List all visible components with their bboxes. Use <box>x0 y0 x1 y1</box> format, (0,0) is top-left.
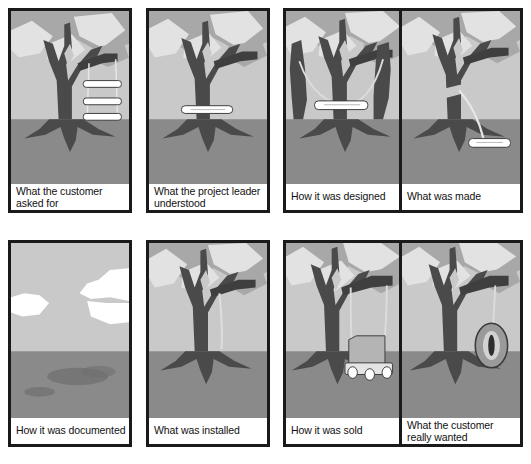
comic-grid: What the customer asked for What the <box>0 0 531 464</box>
panel-5-illustration <box>11 243 129 418</box>
panel-8-illustration <box>402 243 520 418</box>
panel-1-illustration <box>11 11 129 184</box>
panel-7-scene <box>286 243 404 418</box>
comic-panel-5: How it was documented <box>8 240 132 447</box>
panel-5-scene <box>11 243 129 418</box>
comic-panel-4: What was made <box>399 8 523 213</box>
panel-7-illustration <box>286 243 404 418</box>
panel-3-illustration <box>286 11 404 184</box>
panel-6-scene <box>149 243 267 418</box>
panel-2-illustration <box>149 11 267 184</box>
panel-4-scene <box>402 11 520 184</box>
panel-4-caption: What was made <box>402 184 520 210</box>
panel-8-caption: What the customer really wanted <box>402 418 520 444</box>
panel-3-scene <box>286 11 404 184</box>
panel-3-caption: How it was designed <box>286 184 404 210</box>
panel-4-illustration <box>402 11 520 184</box>
panel-8-scene <box>402 243 520 418</box>
panel-1-scene <box>11 11 129 184</box>
comic-panel-7: How it was sold <box>283 240 407 447</box>
panel-1-caption: What the customer asked for <box>11 184 129 210</box>
comic-panel-6: What was installed <box>146 240 270 447</box>
comic-panel-3: How it was designed <box>283 8 407 213</box>
panel-2-caption: What the project leader understood <box>149 184 267 210</box>
comic-panel-1: What the customer asked for <box>8 8 132 213</box>
comic-panel-8: What the customer really wanted <box>399 240 523 447</box>
panel-7-caption: How it was sold <box>286 418 404 444</box>
panel-6-caption: What was installed <box>149 418 267 444</box>
panel-5-caption: How it was documented <box>11 418 129 444</box>
comic-panel-2: What the project leader understood <box>146 8 270 213</box>
panel-6-illustration <box>149 243 267 418</box>
panel-2-scene <box>149 11 267 184</box>
